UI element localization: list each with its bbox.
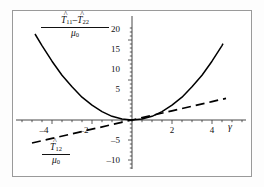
t12-subscript: 12 bbox=[55, 145, 62, 152]
y-tick-label-5: 5 bbox=[98, 85, 120, 94]
x-tick-label-4: 4 bbox=[202, 126, 222, 135]
hat-accent-icon: ^ bbox=[61, 11, 71, 19]
t12-symbol: ^T12 bbox=[50, 143, 62, 153]
figure-root: 20 15 10 5 –5 –10 –4 –2 2 4 γ ^T11–^T22 … bbox=[0, 0, 264, 187]
t22-subscript: 22 bbox=[83, 18, 90, 25]
annotation-denominator: μ0 bbox=[36, 155, 76, 166]
y-tick-label-15: 15 bbox=[98, 45, 120, 54]
annotation-shear-stress: ^T12 μ0 bbox=[36, 143, 76, 165]
annotation-denominator: μ0 bbox=[38, 28, 112, 39]
annotation-normal-stress-difference: ^T11–^T22 μ0 bbox=[38, 16, 112, 38]
x-tick-label-minus4: –4 bbox=[34, 126, 54, 135]
t11-symbol: ^T11 bbox=[61, 16, 73, 26]
hat-accent-icon: ^ bbox=[50, 138, 60, 146]
hat-accent-icon: ^ bbox=[77, 11, 87, 19]
t22-symbol: ^T22 bbox=[77, 16, 89, 26]
x-axis-name-gamma: γ bbox=[228, 122, 232, 132]
annotation-numerator: ^T12 bbox=[36, 143, 76, 154]
t11-subscript: 11 bbox=[66, 18, 72, 25]
curve-shear-stress bbox=[32, 98, 226, 143]
x-tick-label-minus2: –2 bbox=[74, 126, 94, 135]
annotation-numerator: ^T11–^T22 bbox=[38, 16, 112, 27]
mu-subscript: 0 bbox=[57, 158, 60, 165]
x-tick-label-2: 2 bbox=[162, 126, 182, 135]
mu-subscript: 0 bbox=[76, 31, 79, 38]
y-tick-label-10: 10 bbox=[98, 65, 120, 74]
y-tick-label-minus10: –10 bbox=[94, 156, 120, 165]
y-tick-label-minus5: –5 bbox=[98, 136, 120, 145]
curve-normal-stress-difference bbox=[35, 34, 223, 120]
